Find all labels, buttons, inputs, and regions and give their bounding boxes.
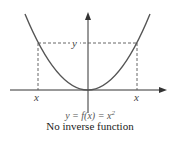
y-axis-arrow-icon xyxy=(85,12,91,20)
subtitle-caption: No inverse function xyxy=(0,120,180,132)
x-right-label: x xyxy=(133,91,139,103)
x-axis-arrow-icon xyxy=(159,87,167,93)
x-left-label: x xyxy=(33,91,39,103)
equation-exponent: 2 xyxy=(111,109,115,117)
y-level-label: y xyxy=(71,37,77,49)
